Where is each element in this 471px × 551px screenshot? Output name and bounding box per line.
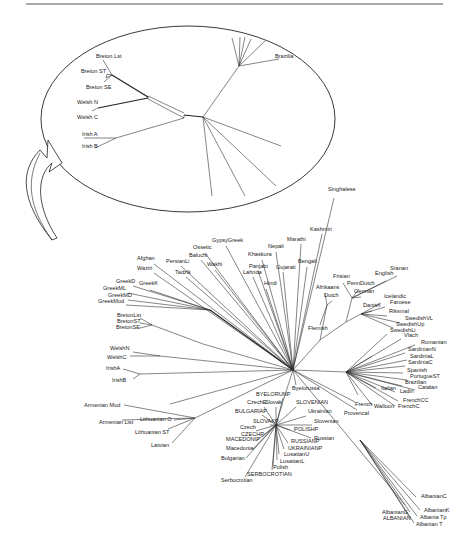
language-label: Lithuanian ST [135, 429, 170, 435]
leaf-branch [276, 416, 306, 425]
language-label: Danish [363, 302, 380, 308]
inset-label: Breton ST [81, 68, 107, 74]
language-label: Ladin [400, 388, 414, 394]
inset-label: Welsh N [77, 99, 98, 105]
leaf-branch [201, 260, 293, 370]
inset-label: Brazilia [275, 53, 294, 59]
inset-label: Irish B [82, 143, 98, 149]
leaf-branch [186, 277, 293, 370]
language-label: Bengali [298, 258, 317, 264]
main-tree: SinghaleseKashmiriMarathiNepaliKhaskuraB… [84, 186, 450, 527]
language-label: ALBANIAN [383, 515, 411, 521]
language-label: Lithuanian O [140, 416, 172, 422]
language-label: Wakhi [207, 261, 222, 267]
language-label: SardinianN [408, 346, 436, 352]
leaf-branch [140, 325, 152, 328]
language-label: Czech [240, 424, 256, 430]
language-label: PennDutch [347, 280, 375, 286]
inset-magnified-view: Breton LstBreton STBreton SEWelsh NWelsh… [41, 26, 335, 212]
language-label: GreekK [139, 280, 158, 286]
phylogenetic-tree-figure: Breton LstBreton STBreton SEWelsh NWelsh… [0, 0, 471, 551]
inset-label: Irish A [82, 131, 98, 137]
language-label: Marathi [287, 236, 306, 242]
language-label: IrishA [106, 365, 121, 371]
leaf-branch [123, 369, 140, 374]
language-label: Armenian Mod [84, 402, 120, 408]
leaf-branch [262, 260, 293, 370]
language-label: Sranan [390, 265, 408, 271]
language-label: Hindi [264, 280, 277, 286]
language-label: Slovenian [314, 418, 339, 424]
leaf-branch [360, 440, 410, 512]
language-label: GypsyGreek [212, 237, 243, 243]
leaf-branch [133, 374, 140, 379]
language-label: WelshN [110, 345, 129, 351]
language-label: GreekMod [98, 298, 124, 304]
leaf-branch [360, 440, 417, 516]
language-label: FrenchC [398, 403, 419, 409]
magnify-arrow-icon [26, 140, 62, 240]
language-label: AlbanianK [424, 507, 450, 513]
language-label: AlbanianC [421, 493, 447, 499]
language-label: BretonSE [116, 324, 140, 330]
language-label: Macedonia [226, 445, 254, 451]
language-label: POLISHP [294, 426, 319, 432]
leaf-branch [327, 301, 332, 305]
language-label: Frisian [333, 273, 350, 279]
language-label: LusatianU [284, 451, 309, 457]
language-label: SardiniaC [408, 359, 433, 365]
language-label: Nepali [268, 243, 284, 249]
language-label: German [354, 288, 374, 294]
language-label: Waziri [137, 265, 152, 271]
language-label: SLOVAKP [253, 418, 279, 424]
inset-label: Welsh C [77, 114, 98, 120]
leaf-branch [346, 360, 407, 372]
language-label: Dutch [324, 292, 339, 298]
language-label: BYELORUNP [256, 391, 291, 397]
language-label: Albanian T [416, 521, 443, 527]
language-label: Tadzik [175, 269, 191, 275]
language-label: Khaskura [248, 251, 273, 257]
leaf-branch [346, 345, 415, 372]
leaf-branch [360, 440, 420, 510]
language-label: WelshC [107, 354, 126, 360]
language-label: Ukrainian [308, 408, 332, 414]
language-label: Vlach [404, 332, 418, 338]
language-label: CzechE [247, 399, 267, 405]
language-label: Ossetic [193, 244, 212, 250]
inset-label: Breton Lst [96, 53, 122, 59]
leaf-branch [172, 418, 195, 443]
language-label: RUSSIANP [291, 438, 320, 444]
language-label: Baluchi [189, 252, 207, 258]
language-label: SLOVENIAN [296, 399, 328, 405]
language-label: Afrikaans [316, 284, 340, 290]
language-label: Latvian [151, 442, 169, 448]
inset-label: Breton SE [86, 84, 112, 90]
inset-labels: Breton LstBreton STBreton SEWelsh NWelsh… [77, 53, 294, 149]
language-label: Romanian [421, 339, 447, 345]
language-label: Riksmal [389, 308, 409, 314]
language-label: BULGARIAP [235, 408, 267, 414]
language-label: SERBOCROTIAN [247, 471, 292, 477]
leaf-branch [360, 440, 416, 497]
language-label: PersianLi [166, 258, 189, 264]
language-label: Catalan [418, 384, 437, 390]
language-label: Polish [273, 464, 288, 470]
leaf-branch [361, 311, 372, 314]
language-label: Byelorussa [292, 385, 321, 391]
language-label: MACEDONIP [226, 436, 260, 442]
language-label: Afghan [137, 255, 155, 261]
language-label: Albania Tp [420, 514, 447, 520]
language-label: Italian [381, 385, 396, 391]
language-label: GreekML [103, 285, 126, 291]
language-label: GreekD [116, 278, 135, 284]
language-label: French [355, 401, 372, 407]
language-label: Kashmiri [310, 226, 332, 232]
leaf-branch [133, 352, 160, 356]
leaf-branch [346, 334, 387, 372]
language-label: Provencal [344, 410, 369, 416]
language-label: IrishB [112, 377, 127, 383]
language-label: Walloon [374, 403, 394, 409]
inset-branches [84, 37, 281, 196]
language-label: Singhalese [328, 186, 356, 192]
